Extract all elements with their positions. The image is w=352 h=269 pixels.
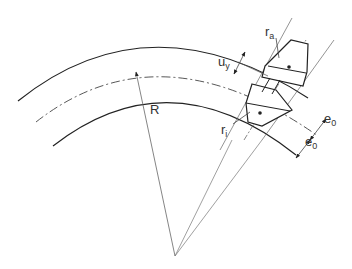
contact-point-lower	[258, 111, 262, 115]
radius-line	[136, 72, 175, 256]
e0-label-bottom: e0	[305, 134, 317, 151]
uy-label: uy	[218, 54, 230, 71]
ri-label: ri	[221, 122, 227, 139]
bearing-track-diagram: R ra uy ri e0 e0	[0, 0, 352, 269]
uy-extension	[238, 62, 268, 76]
ra-label: ra	[265, 24, 274, 41]
radius-label: R	[150, 102, 159, 117]
ray-line-2	[175, 140, 262, 256]
bearing-axis-left	[220, 18, 292, 150]
ray-line-1	[175, 140, 232, 256]
contact-point-upper	[287, 65, 291, 69]
lower-roller	[246, 84, 292, 126]
e0-label-top: e0	[324, 111, 336, 128]
